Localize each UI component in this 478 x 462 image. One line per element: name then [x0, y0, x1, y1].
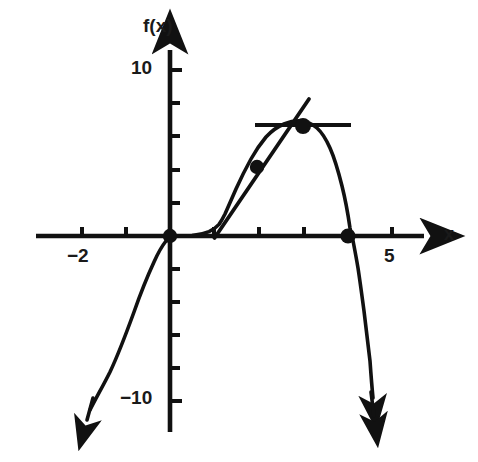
point-root — [340, 228, 355, 243]
y-tick-label-minus-10: −10 — [120, 388, 152, 407]
x-tick-label-5: 5 — [384, 246, 395, 265]
point-origin — [163, 229, 177, 243]
x-axis-label: x — [444, 225, 454, 243]
function-curve — [90, 121, 373, 410]
y-tick-label-10: 10 — [131, 58, 152, 77]
graph-figure: f(x) x 10 −10 −2 5 — [0, 0, 478, 462]
point-maximum — [295, 118, 311, 134]
plot-canvas — [0, 0, 478, 462]
y-axis-label: f(x) — [143, 16, 173, 35]
point-on-secant — [250, 160, 264, 174]
x-axis — [36, 227, 424, 237]
x-tick-label-minus-2: −2 — [67, 246, 89, 265]
